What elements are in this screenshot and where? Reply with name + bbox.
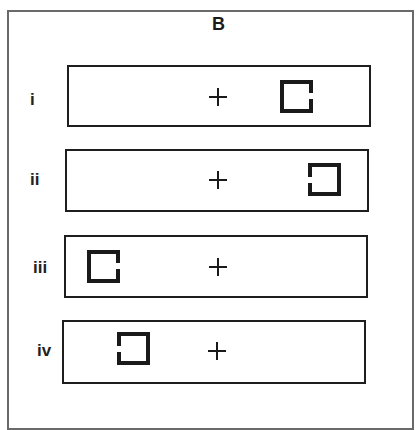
row-label-i: i xyxy=(30,90,35,110)
fixation-cross-icon xyxy=(209,258,227,276)
fixation-cross-icon xyxy=(209,171,227,189)
square-gap-right-icon xyxy=(280,80,313,113)
square-gap-right-icon xyxy=(87,250,120,283)
row-label-iv: iv xyxy=(37,341,51,361)
row-label-ii: ii xyxy=(30,170,39,190)
figure-title: B xyxy=(0,14,419,35)
square-gap-left-icon xyxy=(308,163,341,196)
row-label-iii: iii xyxy=(33,258,47,278)
square-gap-left-icon xyxy=(117,332,150,365)
fixation-cross-icon xyxy=(209,88,227,106)
fixation-cross-icon xyxy=(208,342,226,360)
